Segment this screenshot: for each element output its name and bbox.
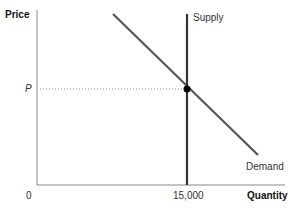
origin-label: 0 [26, 191, 32, 201]
price-tick-label: P [25, 84, 32, 94]
y-axis-label: Price [5, 10, 29, 20]
supply-label: Supply [193, 13, 224, 23]
demand-label: Demand [246, 162, 284, 172]
x-axis-label: Quantity [247, 191, 288, 201]
demand-curve [113, 14, 258, 155]
chart-canvas [0, 0, 302, 212]
quantity-tick-label: 15,000 [173, 191, 204, 201]
equilibrium-point [184, 86, 191, 93]
